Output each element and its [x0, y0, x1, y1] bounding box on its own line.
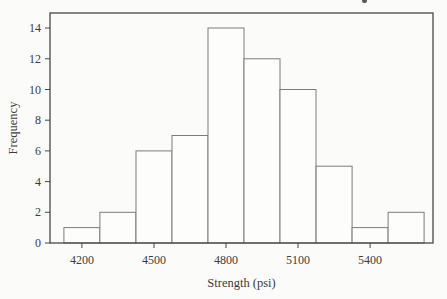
y-tick-label: 4: [35, 175, 41, 189]
histogram-bar: [352, 228, 388, 243]
histogram-bar: [244, 59, 280, 243]
x-tick-label: 5400: [358, 253, 382, 267]
histogram-bar: [172, 136, 208, 244]
histogram-bar: [100, 212, 136, 243]
histogram-chart: 4200450048005100540002468101214Strength …: [0, 0, 447, 299]
y-tick-label: 12: [29, 52, 41, 66]
y-tick-label: 2: [35, 205, 41, 219]
y-axis-label: Frequency: [6, 101, 20, 155]
histogram-bar: [388, 212, 424, 243]
stray-ink-mark: [362, 0, 367, 3]
histogram-bar: [280, 90, 316, 244]
y-tick-label: 8: [35, 113, 41, 127]
x-tick-label: 4800: [214, 253, 238, 267]
histogram-bar: [136, 151, 172, 243]
x-axis-label: Strength (psi): [207, 276, 275, 290]
y-tick-label: 14: [29, 21, 41, 35]
histogram-bar: [64, 228, 100, 243]
histogram-bar: [316, 166, 352, 243]
x-tick-label: 5100: [286, 253, 310, 267]
histogram-bar: [208, 28, 244, 243]
y-tick-label: 10: [29, 83, 41, 97]
histogram-figure: 4200450048005100540002468101214Strength …: [0, 0, 447, 299]
y-tick-label: 0: [35, 236, 41, 250]
x-tick-label: 4200: [70, 253, 94, 267]
x-tick-label: 4500: [142, 253, 166, 267]
y-tick-label: 6: [35, 144, 41, 158]
